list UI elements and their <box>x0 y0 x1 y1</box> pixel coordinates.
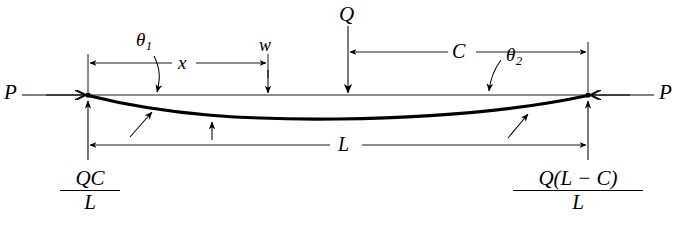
theta-1-leader <box>154 56 159 92</box>
right-reaction-label: Q(L − C) L <box>513 168 643 214</box>
deflected-beam-curve <box>88 96 588 120</box>
slope-tick-left <box>130 112 152 137</box>
theta-1-label: θ1 <box>136 30 152 53</box>
left-reaction-numerator: QC <box>60 168 120 191</box>
right-support <box>585 92 590 97</box>
point-load-label: Q <box>339 4 354 25</box>
theta-2-symbol: θ <box>506 44 515 65</box>
dimension-C <box>350 42 588 92</box>
theta-1-subscript: 1 <box>145 38 152 53</box>
distance-C-label: C <box>452 41 465 61</box>
slope-tick-right <box>508 114 528 138</box>
right-reaction-numerator: Q(L − C) <box>513 168 643 191</box>
theta-2-subscript: 2 <box>515 53 522 68</box>
theta-2-leader <box>489 60 501 91</box>
span-L-label: L <box>338 134 349 154</box>
distance-x-label: x <box>178 53 186 72</box>
axial-load-left-label: P <box>4 82 17 103</box>
theta-1-symbol: θ <box>136 29 145 50</box>
theta-2-label: θ2 <box>506 45 522 68</box>
deflection-w-label: w <box>259 36 271 54</box>
right-reaction-denominator: L <box>513 191 643 213</box>
left-support <box>85 92 90 97</box>
beam-column-diagram: P P Q θ1 θ2 x w C L QC L Q(L − C) L <box>0 0 676 227</box>
axial-load-right-label: P <box>659 82 672 103</box>
left-reaction-label: QC L <box>60 168 120 214</box>
left-reaction-denominator: L <box>60 191 120 213</box>
